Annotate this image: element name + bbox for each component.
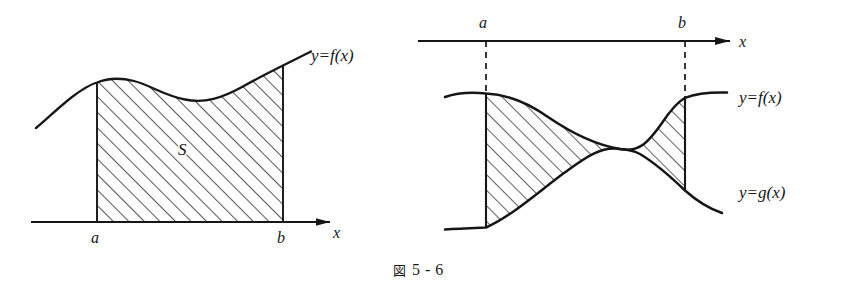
left-region-label-S: S [178, 140, 187, 159]
right-tick-label-a: a [479, 14, 487, 31]
left-tick-label-b: b [277, 229, 285, 246]
figure-container: y=f(x) a b x S [0, 0, 845, 288]
left-curve-label-f: y=f(x) [309, 46, 354, 65]
right-curve-label-g: y=g(x) [737, 183, 786, 202]
right-axis-label-x: x [738, 33, 746, 50]
figure-5-6-svg: y=f(x) a b x S [0, 0, 845, 288]
left-tick-label-a: a [91, 229, 99, 246]
caption-marker-zu: 図 [393, 263, 406, 278]
right-curve-label-f: y=f(x) [737, 88, 782, 107]
right-tick-label-b: b [678, 14, 686, 31]
figure-caption-group: 図 5 - 6 [393, 261, 444, 278]
caption-number: 5 - 6 [412, 261, 444, 278]
left-axis-label-x: x [332, 224, 340, 241]
